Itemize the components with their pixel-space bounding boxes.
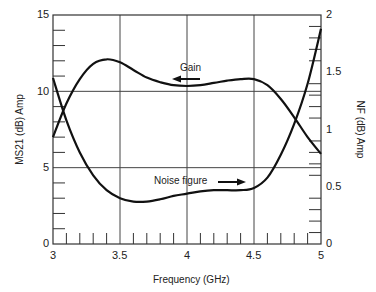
grid-lines bbox=[53, 15, 321, 244]
y-left-tick-label: 15 bbox=[37, 8, 49, 20]
x-tick-label: 4 bbox=[184, 249, 190, 261]
y-left-tick-label: 0 bbox=[43, 237, 49, 249]
y-right-tick-label: 1.5 bbox=[326, 65, 341, 77]
x-tick-label: 5 bbox=[318, 249, 324, 261]
x-axis-title: Frequency (GHz) bbox=[153, 274, 230, 285]
y-left-tick-label: 10 bbox=[37, 85, 49, 97]
y-left-axis-title: MS21 (dB) Amp bbox=[14, 90, 25, 170]
y-right-tick-label: 0 bbox=[326, 237, 332, 249]
gain-annotation: Gain bbox=[180, 62, 201, 73]
y-right-tick-label: 2 bbox=[326, 8, 332, 20]
y-right-tick-label: 1 bbox=[326, 123, 332, 135]
x-tick-label: 3 bbox=[50, 249, 56, 261]
noise-figure-annotation: Noise figure bbox=[154, 175, 207, 186]
y-left-tick-label: 5 bbox=[43, 161, 49, 173]
x-tick-label: 4.5 bbox=[246, 249, 261, 261]
x-tick-label: 3.5 bbox=[112, 249, 127, 261]
y-right-axis-title: NF (dB) Amp bbox=[355, 90, 366, 170]
y-right-tick-label: 0.5 bbox=[326, 180, 341, 192]
noise-figure-arrow-icon bbox=[218, 179, 246, 186]
gain-arrow-icon bbox=[172, 76, 200, 83]
